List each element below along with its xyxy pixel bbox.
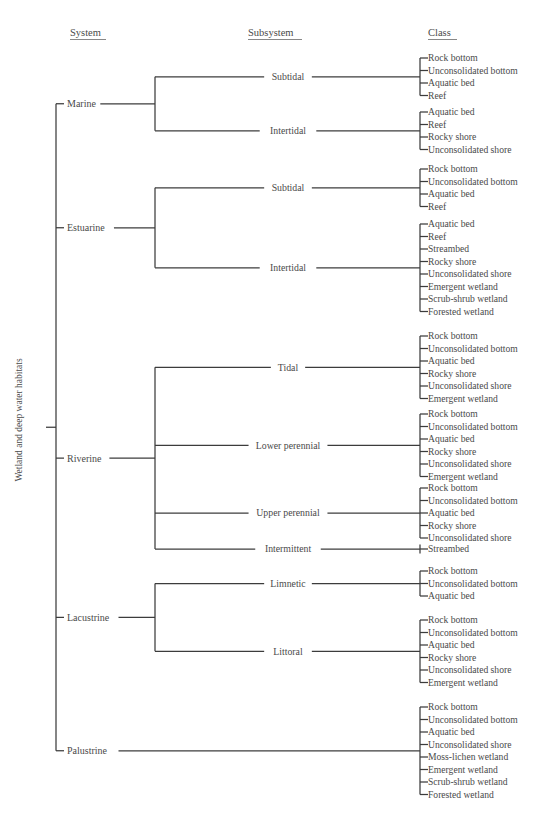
- root-label: Wetland and deep water habitats: [14, 358, 24, 482]
- class-label: Emergent wetland: [428, 764, 498, 775]
- class-label: Unconsolidated shore: [428, 458, 511, 469]
- class-label: Reef: [428, 201, 447, 212]
- class-label: Emergent wetland: [428, 281, 498, 292]
- class-label: Aquatic bed: [428, 590, 475, 601]
- class-label: Unconsolidated bottom: [428, 714, 518, 725]
- subsystem-label: Lower perennial: [256, 440, 321, 451]
- class-label: Reef: [428, 90, 447, 101]
- subsystem-label: Tidal: [278, 362, 299, 373]
- class-label: Unconsolidated shore: [428, 739, 511, 750]
- class-label: Rocky shore: [428, 368, 476, 379]
- class-label: Rocky shore: [428, 446, 476, 457]
- tree-layer: Rock bottomUnconsolidated bottomAquatic …: [46, 52, 518, 800]
- system-label: Marine: [67, 98, 96, 109]
- subsystem-label: Littoral: [273, 646, 303, 657]
- class-label: Emergent wetland: [428, 677, 498, 688]
- class-label: Rock bottom: [428, 163, 478, 174]
- class-label: Rock bottom: [428, 52, 478, 63]
- header-subsystem: Subsystem: [248, 27, 294, 38]
- system-label: Palustrine: [67, 745, 108, 756]
- class-label: Streambed: [428, 243, 469, 254]
- class-label: Rock bottom: [428, 330, 478, 341]
- class-label: Aquatic bed: [428, 507, 475, 518]
- subsystem-label: Intertidal: [270, 262, 306, 273]
- subsystem-label: Intertidal: [270, 125, 306, 136]
- class-label: Scrub-shrub wetland: [428, 776, 508, 787]
- class-label: Moss-lichen wetland: [428, 751, 508, 762]
- subsystem-label: Subtidal: [272, 182, 305, 193]
- class-label: Streambed: [428, 543, 469, 554]
- class-label: Unconsolidated bottom: [428, 495, 518, 506]
- class-label: Unconsolidated bottom: [428, 343, 518, 354]
- class-label: Aquatic bed: [428, 188, 475, 199]
- subsystem-label: Intermittent: [265, 543, 312, 554]
- class-label: Unconsolidated bottom: [428, 176, 518, 187]
- class-label: Rock bottom: [428, 408, 478, 419]
- class-label: Aquatic bed: [428, 355, 475, 366]
- class-label: Scrub-shrub wetland: [428, 293, 508, 304]
- class-label: Unconsolidated bottom: [428, 65, 518, 76]
- class-label: Reef: [428, 119, 447, 130]
- class-label: Rock bottom: [428, 614, 478, 625]
- class-label: Unconsolidated bottom: [428, 421, 518, 432]
- class-label: Aquatic bed: [428, 639, 475, 650]
- class-label: Reef: [428, 231, 447, 242]
- class-label: Emergent wetland: [428, 471, 498, 482]
- system-label: Estuarine: [67, 222, 105, 233]
- class-label: Unconsolidated bottom: [428, 627, 518, 638]
- class-label: Forested wetland: [428, 306, 494, 317]
- subsystem-label: Limnetic: [270, 578, 306, 589]
- class-label: Rock bottom: [428, 482, 478, 493]
- class-label: Aquatic bed: [428, 726, 475, 737]
- subsystem-label: Subtidal: [272, 71, 305, 82]
- class-label: Aquatic bed: [428, 218, 475, 229]
- column-headers: System Subsystem Class: [70, 27, 457, 40]
- system-label: Riverine: [67, 453, 102, 464]
- class-label: Rock bottom: [428, 701, 478, 712]
- class-label: Aquatic bed: [428, 77, 475, 88]
- class-label: Rocky shore: [428, 652, 476, 663]
- class-label: Unconsolidated shore: [428, 380, 511, 391]
- class-label: Forested wetland: [428, 789, 494, 800]
- header-class: Class: [428, 27, 451, 38]
- root-label-group: Wetland and deep water habitats: [14, 358, 24, 482]
- class-label: Rocky shore: [428, 256, 476, 267]
- class-label: Aquatic bed: [428, 433, 475, 444]
- wetland-classification-diagram: System Subsystem Class Wetland and deep …: [0, 0, 557, 819]
- class-label: Rocky shore: [428, 131, 476, 142]
- class-label: Aquatic bed: [428, 106, 475, 117]
- class-label: Unconsolidated shore: [428, 664, 511, 675]
- class-label: Emergent wetland: [428, 393, 498, 404]
- class-label: Rock bottom: [428, 565, 478, 576]
- class-label: Unconsolidated shore: [428, 532, 511, 543]
- class-label: Unconsolidated shore: [428, 268, 511, 279]
- class-label: Rocky shore: [428, 520, 476, 531]
- class-label: Unconsolidated bottom: [428, 578, 518, 589]
- class-label: Unconsolidated shore: [428, 144, 511, 155]
- header-system: System: [70, 27, 101, 38]
- subsystem-label: Upper perennial: [256, 507, 320, 518]
- system-label: Lacustrine: [67, 612, 110, 623]
